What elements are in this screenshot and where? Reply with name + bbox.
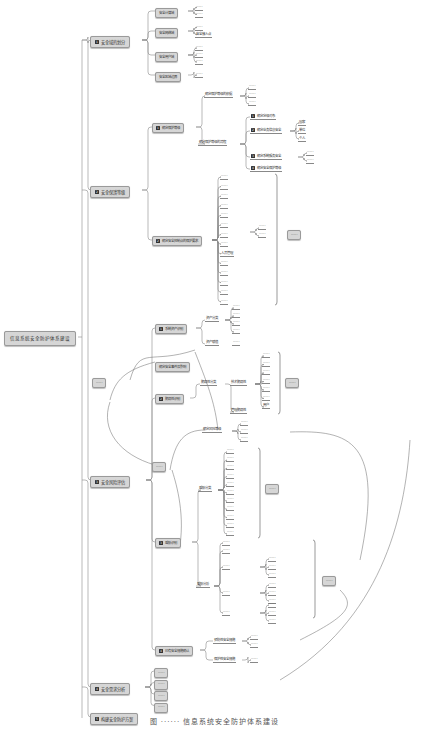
risk-level-leaf[interactable]: ······ [240, 436, 248, 442]
branch-security-needs[interactable]: 4安全需求分析 [90, 683, 130, 695]
threat-class-leaf[interactable]: ······ [226, 514, 234, 520]
threat-class-leaf[interactable]: ······ [226, 481, 234, 487]
threat-analysis-leaf[interactable]: ······ [268, 556, 276, 562]
control-point-leaf[interactable]: ······ [220, 280, 228, 286]
control-point-leaf[interactable]: ······ [220, 260, 228, 266]
existing-measure-leaf[interactable]: ······ [250, 642, 258, 648]
asset-class-leaf[interactable]: ······ [232, 304, 240, 310]
threat-analysis-leaf[interactable]: ······ [268, 582, 276, 588]
threat-analysis-group[interactable]: ······ [222, 610, 230, 616]
security-need-item[interactable]: ······ [154, 680, 168, 690]
control-point-leaf[interactable]: ······ [220, 232, 228, 238]
threat-summary-note[interactable]: ······ [265, 484, 279, 494]
grade-basis-leaf[interactable]: ······ [248, 100, 256, 106]
threat-class-leaf[interactable]: ······ [226, 464, 234, 470]
domain-leaf[interactable]: ······ [195, 12, 203, 18]
tech-vuln-leaf[interactable]: ······ [262, 369, 270, 375]
asset-class-leaf[interactable]: ······ [232, 320, 240, 326]
control-point-leaf[interactable]: ······ [220, 184, 228, 190]
threat-analysis-leaf[interactable]: ······ [268, 610, 276, 616]
domain-leaf[interactable]: ······ [195, 45, 203, 51]
domain-leaf[interactable]: 安全接入点 [195, 32, 212, 38]
security-need-item[interactable]: ······ [154, 668, 168, 678]
mgmt-vuln-node[interactable]: 管理脆弱性 [230, 408, 247, 414]
domain-node[interactable]: 安全计算域 [155, 8, 178, 18]
threat-identify-node[interactable]: 3威胁识别 [155, 538, 181, 548]
existing-measure-node[interactable]: 预防性安全措施 [213, 638, 236, 644]
threat-analysis-group[interactable]: ······ [222, 564, 230, 570]
threat-analysis-group[interactable]: ······ [222, 590, 230, 596]
existing-measure-leaf[interactable]: ······ [250, 657, 258, 663]
domain-leaf[interactable]: ······ [195, 52, 203, 58]
threat-class-leaf[interactable]: ······ [226, 530, 234, 536]
control-point-leaf[interactable]: ······ [220, 241, 228, 247]
threat-class-leaf[interactable]: ······ [226, 448, 234, 454]
branch-security-domain[interactable]: 1安全域的划分 [90, 36, 130, 48]
control-point-leaf[interactable]: ······ [220, 270, 228, 276]
domain-leaf[interactable]: ······ [195, 5, 203, 11]
grade-flow-step[interactable]: 4确定安全保护等级 [250, 166, 282, 172]
threat-event-node[interactable]: ······ [152, 462, 166, 472]
threat-class-leaf[interactable]: ······ [226, 456, 234, 462]
control-extra-leaf[interactable]: ······ [258, 224, 266, 230]
vuln-identify-node[interactable]: 2脆弱性识别 [155, 394, 184, 404]
grade-flow-step[interactable]: 2确定业务信息安全 [250, 128, 282, 134]
vuln-class-node[interactable]: 脆弱性分类 [200, 380, 217, 386]
threat-analysis-group[interactable]: ······ [222, 548, 230, 554]
grade-flow-leaf[interactable]: 单位 [298, 128, 306, 134]
control-point-leaf[interactable]: ······ [220, 212, 228, 218]
asset-identify-node[interactable]: 1系统资产识别 [155, 324, 187, 334]
risk-level-leaf[interactable]: ······ [240, 420, 248, 426]
asset-class-leaf[interactable]: ······ [232, 312, 240, 318]
threat-analysis-group[interactable]: ······ [222, 540, 230, 546]
control-point-leaf[interactable]: ······ [220, 203, 228, 209]
domain-node[interactable]: 安全区域边界 [155, 72, 181, 82]
domain-leaf[interactable]: ······ [195, 59, 203, 65]
branch-protection-grade[interactable]: 2安全保護等级 [90, 186, 130, 198]
grade-flow-step[interactable]: 1确定定级对象 [250, 114, 276, 120]
tech-vuln-leaf[interactable]: 用户 [262, 403, 270, 409]
domain-leaf[interactable]: ······ [195, 72, 203, 78]
threat-analysis-leaf[interactable]: ······ [268, 602, 276, 608]
threat-analysis-note[interactable]: ······ [322, 576, 336, 586]
threat-class-leaf[interactable]: ······ [226, 497, 234, 503]
asset-class-leaf[interactable]: ······ [232, 328, 240, 334]
control-point-leaf[interactable]: ······ [220, 193, 228, 199]
grade-determine-node[interactable]: 1确定保护等级 [152, 123, 184, 133]
grade-basis-leaf[interactable]: ······ [248, 84, 256, 90]
grade-basis-leaf[interactable]: ······ [248, 92, 256, 98]
tech-vuln-node[interactable]: 技术脆弱性 [230, 380, 247, 386]
security-event-node[interactable]: 确定安全事件及影响 [155, 362, 190, 372]
tech-vuln-leaf[interactable]: ······ [262, 386, 270, 392]
vuln-summary-note[interactable]: ······ [285, 378, 299, 388]
threat-analysis-leaf[interactable]: ······ [268, 564, 276, 570]
threat-analysis-leaf[interactable]: ······ [268, 618, 276, 624]
existing-measure-leaf[interactable]: ······ [250, 634, 258, 640]
threat-class-leaf[interactable]: ······ [226, 505, 234, 511]
existing-measure-node[interactable]: 保护性安全措施 [213, 657, 236, 663]
grade-flow-leaf[interactable]: 个人 [298, 136, 306, 142]
threat-class-leaf[interactable]: ······ [226, 522, 234, 528]
risk-level-node[interactable]: 确定风险等级 [202, 427, 222, 433]
branch-risk-assessment[interactable]: 3安全风险评估 [90, 476, 130, 488]
grade-control-node[interactable]: 2确定安全控制点的保护要求 [152, 236, 202, 246]
threat-class-leaf[interactable]: ······ [226, 489, 234, 495]
risk-level-leaf[interactable]: ······ [240, 428, 248, 434]
control-point-leaf[interactable]: 人员管理 [220, 251, 234, 257]
domain-leaf[interactable]: ······ [195, 25, 203, 31]
domain-node[interactable]: 安全用户域 [155, 52, 178, 62]
security-need-item[interactable]: ······ [154, 703, 168, 713]
grade-flow-leaf[interactable]: ······ [306, 158, 314, 164]
grade-flow-step[interactable]: 3确定系统服务安全 [250, 154, 282, 160]
control-extra-leaf[interactable]: ······ [258, 232, 266, 238]
asset-class-node[interactable]: 资产分类 [205, 316, 219, 322]
root-node[interactable]: 信息系统安全防护体系建设 [4, 331, 76, 346]
tech-vuln-leaf[interactable]: ······ [262, 352, 270, 358]
grade-flow-node[interactable]: 确定保护等级的流程 [198, 140, 227, 146]
control-point-leaf[interactable]: ······ [220, 174, 228, 180]
security-need-item[interactable]: ······ [154, 691, 168, 701]
control-point-leaf[interactable]: ······ [220, 289, 228, 295]
threat-analysis-leaf[interactable]: ······ [268, 590, 276, 596]
tech-vuln-leaf[interactable]: ······ [262, 361, 270, 367]
grade-flow-leaf[interactable]: 国家 [298, 120, 306, 126]
